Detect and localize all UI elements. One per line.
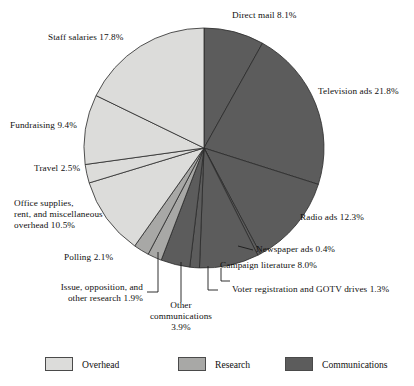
slice-label-fundraising: Fundraising 9.4% bbox=[10, 120, 77, 131]
legend-item-research: Research bbox=[178, 356, 250, 372]
pie-chart: Direct mail 8.1% Television ads 21.8% Ra… bbox=[0, 0, 414, 386]
legend-item-communications: Communications bbox=[285, 356, 388, 372]
slice-label-radio-ads: Radio ads 12.3% bbox=[300, 212, 364, 223]
slice-label-newspaper-ads: Newspaper ads 0.4% bbox=[256, 244, 335, 255]
other-communications-line-2: communications bbox=[131, 311, 231, 322]
legend-swatch-communications bbox=[285, 357, 313, 371]
slice-label-staff-salaries: Staff salaries 17.8% bbox=[48, 32, 124, 43]
office-supplies-line-1: Office supplies, bbox=[14, 198, 144, 209]
legend-swatch-overhead bbox=[45, 357, 73, 371]
chart-legend: Overhead Research Communications bbox=[0, 352, 414, 378]
slice-label-voter-registration: Voter registration and GOTV drives 1.3% bbox=[232, 284, 389, 295]
slice-label-other-communications: Other communications 3.9% bbox=[131, 300, 231, 334]
slice-label-direct-mail: Direct mail 8.1% bbox=[232, 10, 297, 21]
pie-slice-group bbox=[84, 28, 324, 268]
leader-line-issue-research bbox=[147, 259, 158, 292]
slice-label-polling: Polling 2.1% bbox=[64, 252, 113, 263]
leader-line-campaign-literature bbox=[208, 266, 218, 290]
issue-research-line-2: other research 1.9% bbox=[15, 293, 143, 304]
other-communications-line-3: 3.9% bbox=[131, 322, 231, 333]
legend-item-overhead: Overhead bbox=[45, 356, 119, 372]
office-supplies-line-3: overhead 10.5% bbox=[14, 220, 144, 231]
other-communications-line-1: Other bbox=[131, 300, 231, 311]
office-supplies-line-2: rent, and miscellaneous bbox=[14, 209, 144, 220]
slice-label-campaign-literature: Campaign literature 8.0% bbox=[220, 260, 317, 271]
legend-swatch-research bbox=[178, 357, 206, 371]
slice-label-travel: Travel 2.5% bbox=[34, 163, 80, 174]
slice-label-office-supplies: Office supplies, rent, and miscellaneous… bbox=[14, 198, 144, 232]
issue-research-line-1: Issue, opposition, and bbox=[15, 282, 143, 293]
legend-label-research: Research bbox=[215, 359, 250, 370]
slice-label-television-ads: Television ads 21.8% bbox=[318, 86, 399, 97]
legend-label-overhead: Overhead bbox=[82, 359, 119, 370]
slice-label-issue-research: Issue, opposition, and other research 1.… bbox=[15, 282, 143, 304]
legend-label-communications: Communications bbox=[322, 359, 388, 370]
